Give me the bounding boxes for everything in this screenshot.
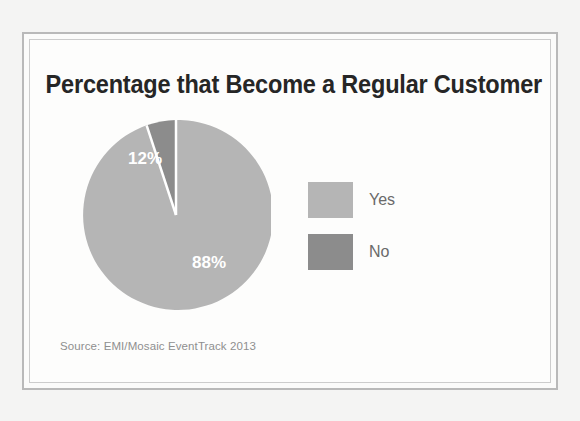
pie-chart: 12% 88%	[81, 120, 271, 310]
pie-svg: 12% 88%	[81, 120, 271, 310]
pie-label-yes: 88%	[192, 253, 226, 272]
pie-label-no: 12%	[128, 149, 162, 168]
legend-swatch-no	[308, 234, 353, 270]
legend-swatch-yes	[308, 182, 353, 218]
legend-label-yes: Yes	[369, 192, 395, 208]
chart-legend: Yes No	[308, 182, 488, 286]
legend-label-no: No	[369, 244, 389, 260]
chart-panel: Percentage that Become a Regular Custome…	[30, 40, 550, 382]
page-title: Percentage that Become a Regular Custome…	[46, 70, 535, 99]
legend-item-no[interactable]: No	[308, 234, 488, 270]
legend-item-yes[interactable]: Yes	[308, 182, 488, 218]
figure-canvas: Percentage that Become a Regular Custome…	[0, 0, 580, 421]
source-note: Source: EMI/Mosaic EventTrack 2013	[60, 340, 256, 352]
